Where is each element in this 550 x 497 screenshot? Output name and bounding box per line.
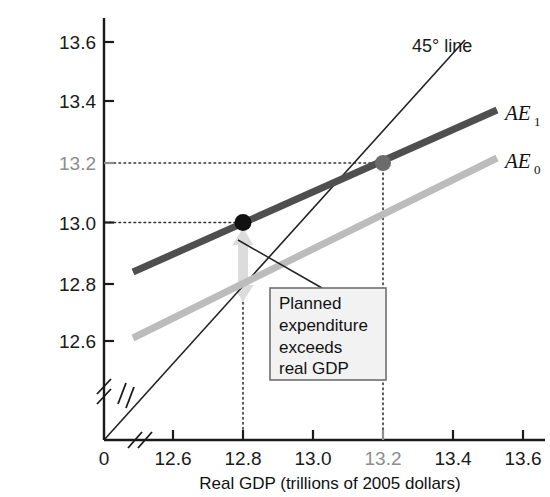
equilibrium-point (375, 155, 391, 171)
x-tick-label-12-8: 12.8 (225, 448, 262, 469)
diagonal-break-2 (126, 387, 134, 408)
y-tick-labels: 13.6 13.4 13.2 13.0 12.8 12.6 (59, 32, 96, 352)
x-origin-label: 0 (99, 448, 110, 469)
ae1-label: AE (503, 101, 531, 125)
callout-line-4: real GDP (279, 359, 349, 378)
y-tick-label-13-0: 13.0 (59, 213, 96, 234)
ae1-label-group: AE 1 (503, 101, 541, 129)
y-tick-label-13-6: 13.6 (59, 32, 96, 53)
callout-line-3: exceeds (279, 338, 342, 357)
callout-line-1: Planned (279, 294, 341, 313)
ae0-label: AE (503, 149, 531, 173)
y-tick-label-12-6: 12.6 (59, 331, 96, 352)
x-tick-labels: 0 12.6 12.8 13.0 13.2 13.4 13.6 (99, 448, 542, 469)
y-tick-label-12-8: 12.8 (59, 274, 96, 295)
chart-canvas: 13.6 13.4 13.2 13.0 12.8 12.6 0 12.6 12.… (0, 0, 550, 497)
forty-five-degree-label: 45° line (412, 36, 472, 56)
aggregate-expenditure-chart: 13.6 13.4 13.2 13.0 12.8 12.6 0 12.6 12.… (0, 0, 550, 497)
y-tick-label-13-4: 13.4 (59, 91, 96, 112)
x-tick-label-13-2: 13.2 (365, 448, 402, 469)
x-tick-label-13-4: 13.4 (435, 448, 472, 469)
x-tick-label-13-6: 13.6 (505, 448, 542, 469)
callout-line-2: expenditure (279, 316, 368, 335)
diagonal-break-1 (118, 383, 126, 404)
ae0-label-group: AE 0 (503, 149, 541, 177)
planned-expenditure-point (235, 214, 252, 231)
y-tick-label-13-2: 13.2 (59, 153, 96, 174)
ae1-label-subscript: 1 (534, 114, 541, 129)
x-axis-title: Real GDP (trillions of 2005 dollars) (199, 474, 460, 493)
x-tick-label-12-6: 12.6 (155, 448, 192, 469)
callout-box: Planned expenditure exceeds real GDP (270, 288, 386, 380)
ae0-label-subscript: 0 (534, 162, 541, 177)
x-tick-label-13-0: 13.0 (295, 448, 332, 469)
